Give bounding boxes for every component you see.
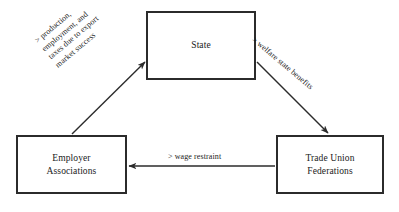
- node-state[interactable]: State: [146, 11, 256, 80]
- diagram-canvas: State Employer Associations Trade Union …: [0, 0, 399, 212]
- node-employer-associations[interactable]: Employer Associations: [16, 135, 127, 194]
- edge-label-wage-restraint: > wage restraint: [168, 152, 278, 163]
- edge-employer-to-state: [72, 62, 145, 134]
- node-state-label: State: [191, 39, 211, 52]
- node-trade-union-federations[interactable]: Trade Union Federations: [276, 135, 384, 194]
- node-employer-associations-label: Employer Associations: [47, 152, 97, 177]
- node-trade-union-federations-label: Trade Union Federations: [305, 152, 354, 177]
